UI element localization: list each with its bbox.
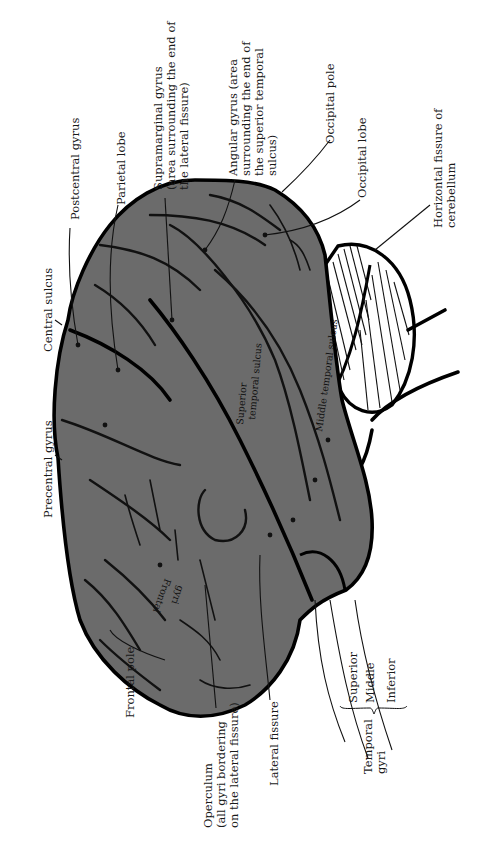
label-supramarginal-gyrus: Supramarginal gyrus: [151, 66, 165, 190]
label-temporal-gyri: Temporal: [361, 719, 375, 774]
cerebral-hemisphere: [54, 180, 372, 716]
label-temporal-gyri-line2: gyri: [374, 751, 388, 774]
temporal-gyri-brace: [340, 706, 407, 714]
label-postcentral-gyrus: Postcentral gyrus: [68, 118, 82, 220]
label-lateral-fissure: Lateral fissure: [267, 701, 281, 786]
label-temporal-middle: Middle: [363, 662, 377, 703]
label-angular-gyrus-line3: the superior temporal: [252, 48, 266, 176]
label-precentral-gyrus: Precentral gyrus: [41, 420, 55, 518]
label-occipital-lobe: Occipital lobe: [355, 117, 369, 198]
label-supramarginal-gyrus-line2: (area surrounding the end of: [164, 21, 178, 190]
label-operculum: Operculum: [201, 763, 215, 828]
label-supramarginal-gyrus-line3: the lateral fissure): [177, 82, 191, 190]
label-angular-gyrus-line2: surrounding the end of: [239, 41, 253, 176]
label-frontal-pole: Frontal pole: [123, 646, 137, 718]
label-operculum-line2: (all gyri bordering: [214, 720, 228, 828]
label-temporal-inferior: Inferior: [384, 658, 398, 703]
label-angular-gyrus-line4: sulcus): [265, 135, 279, 176]
label-operculum-line3: on the lateral fissure): [227, 702, 241, 828]
label-temporal-superior: Superior: [346, 651, 360, 703]
label-occipital-pole: Occipital pole: [323, 63, 337, 144]
label-parietal-lobe: Parietal lobe: [114, 131, 128, 205]
brain-lateral-diagram: Postcentral gyrus Parietal lobe Supramar…: [0, 0, 494, 866]
label-angular-gyrus: Angular gyrus (area: [226, 59, 240, 177]
label-horizontal-fissure: Horizontal fissure of: [431, 108, 445, 228]
label-central-sulcus: Central sulcus: [41, 268, 55, 352]
label-horizontal-fissure-line2: cerebellum: [444, 163, 458, 228]
